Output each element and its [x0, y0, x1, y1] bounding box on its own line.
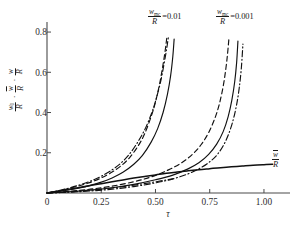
y-axis-label: w0 R · w R · w R [6, 68, 25, 111]
x-tick-label: 1.00 [256, 197, 273, 207]
y-tick-label: 0.4 [35, 108, 47, 118]
curve-0 [47, 38, 167, 193]
curve-2 [47, 36, 169, 193]
chart-canvas: 00.250.500.751.000.20.40.60.8 τ [0, 0, 304, 228]
y-axis-separator-2: · [11, 77, 19, 83]
curve-5 [47, 44, 243, 193]
axes-group [47, 22, 290, 193]
figure-container: 00.250.500.751.000.20.40.60.8 τ w0 R · w… [0, 0, 304, 228]
annotation-1-value: =0.01 [161, 13, 181, 21]
x-tick-label: 0.25 [93, 197, 110, 207]
curve-1 [47, 39, 174, 193]
y-axis-term-w-over-R: w R [7, 68, 25, 75]
annotation-2-value: =0.001 [229, 13, 254, 21]
y-axis-term-wbar-over-R: w R [6, 85, 25, 92]
curve-4 [47, 41, 238, 193]
y-tick-label: 0.6 [35, 68, 47, 78]
annotation-wmc-0001-family: wmc R =0.001 [216, 8, 254, 26]
curve-label-fraction: w R [272, 150, 279, 169]
annotation-2-fraction: wmc R [216, 8, 229, 26]
x-tick-label: 0 [45, 197, 50, 207]
x-tick-label: 0.50 [147, 197, 164, 207]
y-axis-separator-1: · [11, 94, 19, 100]
ticks-group [47, 32, 264, 193]
curve-label-wbar-over-R: w R [272, 150, 279, 169]
curves-group [47, 36, 273, 193]
y-tick-label: 0.2 [35, 148, 47, 158]
y-tick-label: 0.8 [35, 27, 47, 37]
annotation-wmc-001-family: wmc R =0.01 [148, 8, 182, 26]
annotation-1-fraction: wmc R [148, 8, 161, 26]
x-tick-label: 0.75 [202, 197, 219, 207]
y-axis-term-w0-over-R: w0 R [7, 102, 25, 111]
x-axis-label: τ [166, 209, 170, 219]
